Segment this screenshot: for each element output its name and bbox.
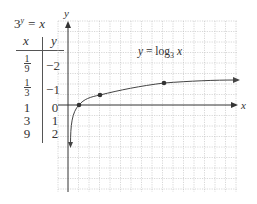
- curve-arrow-right: [233, 77, 240, 83]
- equation-label: y = log3 x: [137, 45, 183, 60]
- point-9-2: [162, 81, 167, 86]
- x-axis: [58, 102, 238, 108]
- x-axis-label: x: [240, 99, 246, 111]
- point-3-1: [98, 93, 103, 98]
- log-graph: y x y = log3 x: [0, 0, 257, 204]
- y-axis-label: y: [63, 7, 69, 19]
- y-axis: [65, 21, 71, 192]
- point-1-0: [77, 103, 82, 108]
- log-curve: [71, 80, 237, 145]
